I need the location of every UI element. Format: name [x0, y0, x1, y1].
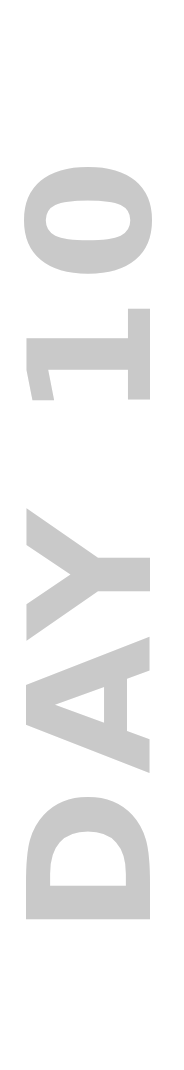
day-title: DAY 10 [7, 144, 176, 935]
vertical-title-container: DAY 10 [0, 5, 184, 1070]
